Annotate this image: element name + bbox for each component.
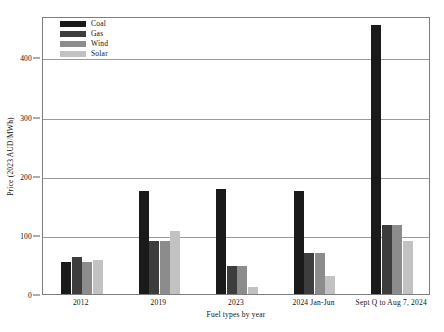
bar-coal-2	[216, 189, 226, 294]
x-axis-tick-label: 2023	[228, 298, 244, 307]
bar-group	[353, 18, 430, 294]
legend-label-solar: Solar	[91, 50, 108, 57]
bar-group	[121, 18, 199, 294]
y-axis-tick-mark	[33, 295, 40, 296]
bar-gas-3	[304, 253, 314, 294]
y-axis-tick-label: 300	[20, 113, 32, 122]
y-axis-tick-label: 100	[20, 231, 32, 240]
legend-swatch-coal	[60, 21, 86, 27]
bar-wind-2	[237, 266, 247, 294]
legend-item-solar: Solar	[60, 50, 108, 57]
bar-wind-4	[392, 225, 402, 294]
y-axis-tick-label: 0	[28, 291, 32, 300]
bar-coal-0	[61, 262, 71, 294]
bar-solar-4	[403, 241, 413, 294]
bar-solar-3	[325, 276, 335, 294]
legend-item-gas: Gas	[60, 30, 108, 37]
y-axis-tick-mark	[33, 235, 40, 236]
bar-gas-2	[227, 266, 237, 294]
x-axis-tick-label: 2012	[73, 298, 89, 307]
bar-gas-0	[72, 257, 82, 294]
bar-chart-figure: Price (2023 AUD/MWh) 0100200300400 20122…	[0, 0, 444, 332]
legend-swatch-gas	[60, 31, 86, 37]
bar-gas-1	[149, 241, 159, 294]
legend-item-coal: Coal	[60, 20, 108, 27]
bar-solar-0	[93, 260, 103, 294]
x-axis-tick-label: Sept Q to Aug 7, 2024	[356, 298, 427, 307]
legend-label-coal: Coal	[91, 20, 106, 27]
bar-solar-1	[170, 231, 180, 294]
legend-label-wind: Wind	[91, 40, 108, 47]
x-axis: 2012201920232024 Jan-JunSept Q to Aug 7,…	[42, 296, 430, 310]
legend-swatch-wind	[60, 41, 86, 47]
y-axis-tick-mark	[33, 176, 40, 177]
bar-group	[276, 18, 354, 294]
y-axis: 0100200300400	[0, 17, 40, 295]
x-axis-tick-label: 2024 Jan-Jun	[292, 298, 334, 307]
x-axis-title: Fuel types by year	[42, 310, 430, 319]
y-axis-tick-mark	[33, 117, 40, 118]
bar-wind-3	[315, 253, 325, 294]
bar-coal-4	[371, 25, 381, 294]
y-axis-tick-label: 400	[20, 54, 32, 63]
y-axis-tick-label: 200	[20, 172, 32, 181]
chart-legend: CoalGasWindSolar	[60, 20, 108, 57]
bar-solar-2	[248, 287, 258, 294]
plot-area	[42, 17, 430, 295]
bar-coal-1	[139, 191, 149, 295]
bar-group	[43, 18, 121, 294]
x-axis-tick-label: 2019	[150, 298, 166, 307]
bar-wind-1	[160, 241, 170, 294]
legend-item-wind: Wind	[60, 40, 108, 47]
y-axis-tick-mark	[33, 58, 40, 59]
bar-group	[198, 18, 276, 294]
bar-gas-4	[382, 225, 392, 294]
bar-wind-0	[82, 262, 92, 294]
legend-swatch-solar	[60, 51, 86, 57]
legend-label-gas: Gas	[91, 30, 103, 37]
bar-coal-3	[294, 191, 304, 295]
